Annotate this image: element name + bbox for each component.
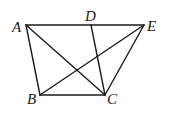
segments [26, 25, 144, 95]
geometry-figure: A D E B C [0, 0, 172, 114]
segment-BE [40, 25, 144, 95]
label-A: A [11, 19, 22, 35]
label-B: B [27, 91, 36, 107]
label-C: C [107, 91, 118, 107]
label-E: E [146, 18, 156, 34]
segment-CE [105, 25, 144, 95]
label-D: D [84, 8, 96, 24]
